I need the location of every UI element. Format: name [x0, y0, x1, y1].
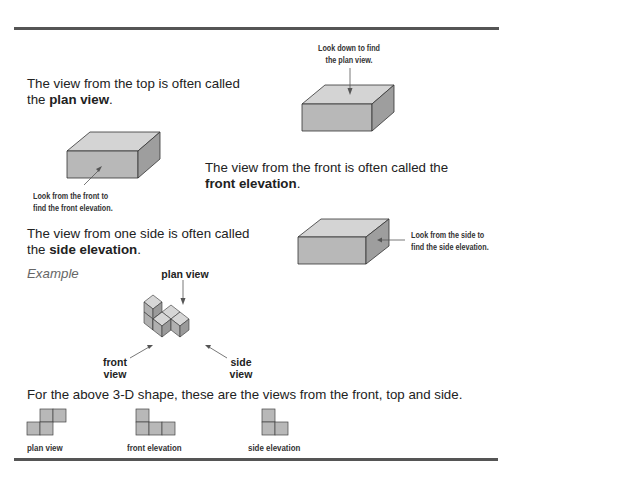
side-view-label-line1: side — [226, 356, 256, 368]
side-text-prefix: the — [27, 242, 49, 257]
box-front-face — [298, 237, 366, 264]
front-caption-line1: Look from the front to — [33, 191, 113, 203]
front-caption-line2: find the front elevation. — [33, 203, 113, 215]
side-caption-line1: Look from the side to — [411, 230, 489, 242]
example-side-view-label: side view — [226, 356, 256, 380]
example-label: Example — [27, 266, 79, 282]
front-elevation-caption: front elevation — [127, 442, 182, 454]
front-elevation-text: The view from the front is often called … — [205, 160, 448, 192]
front-text-suffix: . — [297, 176, 301, 191]
plan-box — [302, 85, 394, 131]
plan-view-grid — [27, 409, 66, 435]
side-text-suffix: . — [137, 242, 141, 257]
front-view-label-line1: front — [100, 356, 130, 368]
example-plan-view-label: plan view — [160, 268, 210, 280]
plan-view-caption: plan view — [27, 442, 63, 454]
side-caption-line2: find the side elevation. — [411, 242, 489, 254]
front-text-line2: front elevation. — [205, 176, 448, 192]
example-plan-arrow — [181, 280, 186, 305]
front-text-line1: The view from the front is often called … — [205, 160, 448, 176]
side-elevation-caption: side elevation — [248, 442, 300, 454]
side-arrow — [377, 238, 405, 243]
example-front-view-label: front view — [100, 356, 130, 380]
side-elevation-grid — [262, 409, 288, 435]
front-caption: Look from the front to find the front el… — [33, 191, 113, 215]
example-side-arrow — [205, 345, 227, 358]
front-elevation-term: front elevation — [205, 176, 297, 191]
box-front-face — [67, 151, 138, 178]
front-elevation-grid — [136, 409, 175, 435]
example-front-arrow — [130, 345, 153, 358]
side-elevation-term: side elevation — [49, 242, 137, 257]
side-text-line2: the side elevation. — [27, 242, 249, 258]
box-front-face — [302, 104, 372, 131]
side-caption: Look from the side to find the side elev… — [411, 230, 489, 254]
side-text-line1: The view from one side is often called — [27, 226, 249, 242]
side-view-label-line2: view — [226, 368, 256, 380]
bottom-rule — [14, 458, 498, 461]
front-box — [67, 132, 160, 178]
summary-text: For the above 3-D shape, these are the v… — [27, 387, 462, 403]
side-elevation-text: The view from one side is often called t… — [27, 226, 249, 258]
front-view-label-line2: view — [100, 368, 130, 380]
side-box — [298, 219, 389, 264]
